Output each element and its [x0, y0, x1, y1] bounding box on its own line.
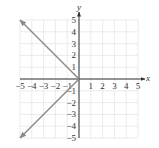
y-tick-label: −4 — [66, 121, 76, 131]
x-tick-label: −4 — [27, 81, 37, 91]
x-tick-label: −5 — [15, 81, 25, 91]
coordinate-plane: x y −5−4−3−2−112345−5−4−3−2−112345 — [0, 0, 159, 148]
y-tick-label: 4 — [72, 27, 77, 37]
y-tick-label: 2 — [72, 50, 77, 60]
x-tick-label: 3 — [112, 81, 117, 91]
y-tick-label: −3 — [66, 109, 76, 119]
y-tick-label: −5 — [66, 133, 76, 143]
x-axis-label: x — [145, 73, 150, 83]
x-tick-label: −3 — [39, 81, 49, 91]
x-tick-label: 5 — [136, 81, 141, 91]
x-tick-label: 2 — [100, 81, 105, 91]
x-tick-label: 4 — [124, 81, 129, 91]
x-tick-label: −2 — [51, 81, 61, 91]
ray-line — [20, 20, 79, 79]
y-axis-label: y — [76, 2, 81, 12]
y-tick-label: 1 — [72, 62, 77, 72]
y-tick-label: 3 — [72, 39, 77, 49]
y-tick-label: 5 — [72, 15, 77, 25]
y-tick-label: −2 — [66, 98, 76, 108]
x-tick-label: 1 — [89, 81, 94, 91]
